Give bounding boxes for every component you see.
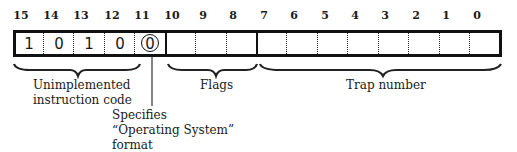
- brace-unimplemented: [14, 64, 140, 76]
- label-line: Unimplemented: [33, 78, 132, 93]
- brace-graphics: [0, 0, 517, 152]
- callout-line-2: “Operating System”: [112, 123, 234, 138]
- brace-flags: [168, 64, 257, 76]
- callout-line-3: format: [112, 138, 234, 152]
- label-line: instruction code: [33, 93, 132, 108]
- label-trap-number: Trap number: [346, 78, 426, 93]
- brace-trap-number: [260, 64, 501, 76]
- label-flags: Flags: [200, 78, 233, 93]
- label-unimplemented-instruction-code: Unimplemented instruction code: [33, 78, 132, 108]
- callout-text: Specifies “Operating System” format: [112, 108, 234, 152]
- callout-line-1: Specifies: [112, 108, 234, 123]
